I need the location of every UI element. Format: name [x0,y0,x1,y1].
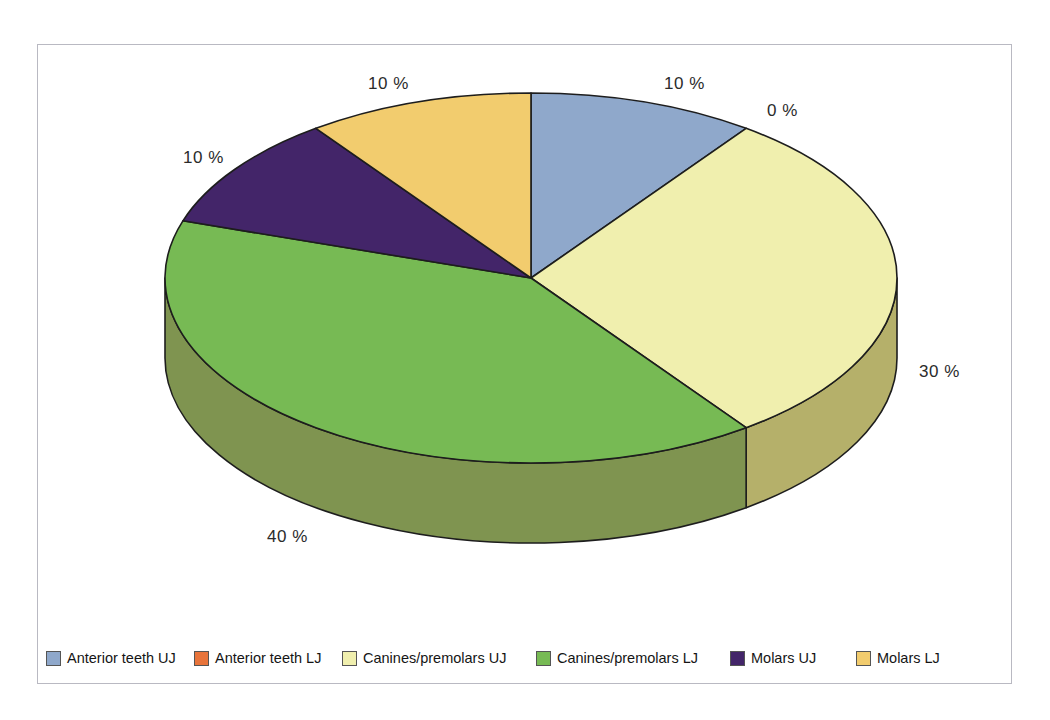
legend-swatch-icon [730,651,745,666]
chart-legend: Anterior teeth UJAnterior teeth LJCanine… [46,645,996,671]
legend-item[interactable]: Canines/premolars UJ [342,650,506,666]
legend-item[interactable]: Anterior teeth UJ [46,650,176,666]
legend-item[interactable]: Molars UJ [730,650,816,666]
pie-value-label: 10 % [368,74,409,94]
legend-item-label: Anterior teeth LJ [215,650,321,666]
pie-value-label: 10 % [664,74,705,94]
pie-value-label: 40 % [267,527,308,547]
pie-chart-figure: 10 %0 %30 %40 %10 %10 % Anterior teeth U… [0,0,1050,720]
pie-value-label: 10 % [183,148,224,168]
legend-swatch-icon [856,651,871,666]
legend-swatch-icon [536,651,551,666]
legend-swatch-icon [46,651,61,666]
pie-value-label: 0 % [767,101,798,121]
legend-swatch-icon [194,651,209,666]
legend-item-label: Canines/premolars LJ [557,650,698,666]
legend-item[interactable]: Molars LJ [856,650,940,666]
legend-item-label: Molars LJ [877,650,940,666]
legend-item-label: Canines/premolars UJ [363,650,506,666]
legend-item[interactable]: Anterior teeth LJ [194,650,321,666]
pie-value-label: 30 % [919,362,960,382]
legend-swatch-icon [342,651,357,666]
legend-item-label: Molars UJ [751,650,816,666]
legend-item-label: Anterior teeth UJ [67,650,176,666]
legend-item[interactable]: Canines/premolars LJ [536,650,698,666]
chart-frame-border [37,44,1012,684]
